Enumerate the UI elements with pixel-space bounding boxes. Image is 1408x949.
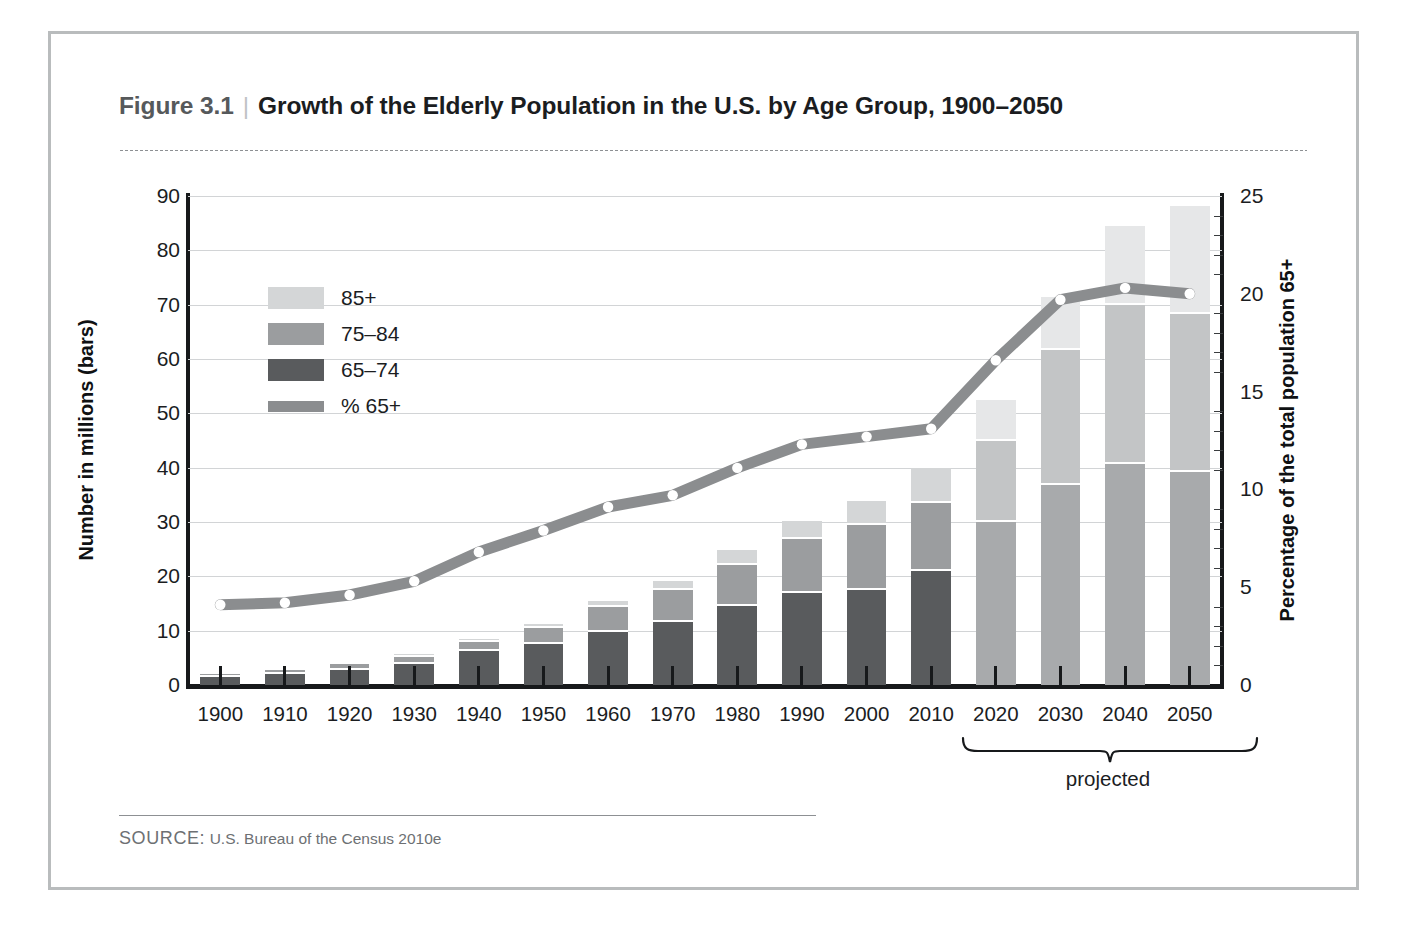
segment-divider [911,501,951,503]
x-tick-1960 [607,666,610,686]
figure-page: Figure 3.1|Growth of the Elderly Populat… [0,0,1408,949]
x-axis-label-2000: 2000 [844,702,890,726]
segment-divider [782,537,822,539]
bar-segment-85-plus [976,400,1016,440]
segment-divider [717,563,757,565]
legend-swatch-icon [268,287,324,309]
line-marker-1970 [668,490,678,500]
y-axis-tick-label: 60 [157,347,180,371]
segment-divider [911,569,951,571]
projected-bracket [960,736,1260,770]
y-axis-tick-label: 20 [157,564,180,588]
legend-swatch-icon [268,323,324,345]
legend-item-65: % 65+ [268,391,401,421]
bar-segment-75-84 [717,564,757,604]
right-y-axis-tick-label: 25 [1240,184,1263,208]
bar-segment-65-74 [1105,463,1145,685]
segment-divider [1105,462,1145,464]
x-tick-1930 [413,666,416,686]
bar-2050 [1170,206,1210,685]
segment-divider [394,655,434,657]
x-axis-label-1950: 1950 [521,702,567,726]
segment-divider [588,605,628,607]
x-tick-1900 [219,666,222,686]
figure-title: Figure 3.1|Growth of the Elderly Populat… [119,92,1063,120]
bar-segment-85-plus [911,468,951,502]
bar-segment-75-84 [653,589,693,621]
segment-divider [1170,312,1210,314]
y-axis-tick-label: 40 [157,456,180,480]
legend-item-75-84: 75–84 [268,319,401,349]
x-axis-label-1920: 1920 [327,702,373,726]
y-axis-tick-label: 80 [157,238,180,262]
y-axis-tick-label: 90 [157,184,180,208]
x-tick-1950 [542,666,545,686]
segment-divider [976,520,1016,522]
y-axis-tick-label: 70 [157,293,180,317]
x-tick-2000 [865,666,868,686]
x-axis-label-1900: 1900 [198,702,244,726]
segment-divider [330,662,370,664]
bar-segment-75-84 [782,538,822,592]
segment-divider [459,640,499,642]
x-tick-2050 [1188,666,1191,686]
y-axis-tick-label: 0 [168,673,180,697]
x-axis-label-1930: 1930 [391,702,437,726]
plot-area [188,196,1222,685]
line-marker-1910 [280,598,290,608]
gridline [188,250,1222,251]
line-marker-2020 [991,355,1001,365]
bar-1980 [717,550,757,685]
bar-segment-75-84 [588,606,628,631]
segment-divider [524,642,564,644]
line-marker-1920 [344,590,354,600]
bar-segment-85-plus [1041,297,1081,349]
segment-divider [1041,483,1081,485]
bar-2000 [847,501,887,685]
y-axis-tick-label: 50 [157,401,180,425]
bar-segment-65-74 [1041,484,1081,685]
legend-item-65-74: 65–74 [268,355,401,385]
right-y-axis-tick-label: 5 [1240,575,1252,599]
legend-label: % 65+ [341,394,401,418]
projected-label: projected [1066,767,1150,791]
right-y-axis-tick-label: 15 [1240,380,1263,404]
title-separator: | [234,92,258,119]
y-axis-tick-label: 30 [157,510,180,534]
right-y-axis-tick-label: 0 [1240,673,1252,697]
x-tick-2040 [1124,666,1127,686]
bar-segment-85-plus [782,521,822,538]
legend-label: 75–84 [341,322,399,346]
x-axis-label-1990: 1990 [779,702,825,726]
bar-segment-85-plus [1105,226,1145,303]
x-axis-label-1980: 1980 [715,702,761,726]
segment-divider [847,588,887,590]
bar-segment-75-84 [1170,313,1210,471]
y-axis-title: Number in millions (bars) [75,319,98,560]
legend-swatch-icon [268,401,324,412]
x-tick-1970 [671,666,674,686]
bar-segment-85-plus [847,501,887,524]
bar-segment-75-84 [1105,304,1145,463]
bar-segment-75-84 [1041,349,1081,484]
bar-segment-75-84 [524,627,564,642]
x-axis-label-1940: 1940 [456,702,502,726]
page-title: Growth of the Elderly Population in the … [258,92,1063,119]
bar-2020 [976,400,1016,685]
bar-2030 [1041,297,1081,685]
segment-divider [1041,348,1081,350]
x-tick-1910 [283,666,286,686]
x-tick-1980 [736,666,739,686]
bar-2040 [1105,226,1145,685]
right-y-axis-title: Percentage of the total population 65+ [1276,259,1299,622]
right-y-axis-tick-label: 10 [1240,477,1263,501]
x-axis-label-2040: 2040 [1102,702,1148,726]
segment-divider [653,588,693,590]
x-axis-label-1970: 1970 [650,702,696,726]
segment-divider [588,630,628,632]
x-axis-label-2030: 2030 [1038,702,1084,726]
title-dotted-rule [119,149,1307,152]
x-axis-label-1910: 1910 [262,702,308,726]
x-tick-1940 [477,666,480,686]
line-marker-1930 [409,576,419,586]
